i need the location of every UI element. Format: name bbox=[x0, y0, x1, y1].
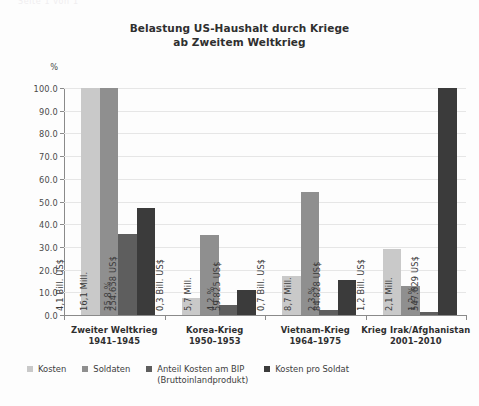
gridline bbox=[64, 133, 466, 134]
bar: 84.828 US$ bbox=[338, 280, 357, 315]
category-years: 1941–1945 bbox=[56, 336, 173, 347]
gridline bbox=[64, 111, 466, 112]
y-axis-tick bbox=[60, 270, 64, 271]
category-name: Krieg Irak/Afghanistan bbox=[358, 325, 475, 336]
x-axis-tick bbox=[466, 315, 467, 320]
bar-value-label: 0,7 Bill. US$ bbox=[255, 259, 265, 311]
x-axis-category-label: Zweiter Weltkrieg1941–1945 bbox=[56, 325, 173, 347]
bar: 547.629 US$ bbox=[438, 88, 457, 315]
x-axis-category-label: Vietnam-Krieg1964–1975 bbox=[257, 325, 374, 347]
x-axis-category-label: Korea-Krieg1950–1953 bbox=[157, 325, 274, 347]
plot-area: 4,1 Bill. US$16,1 Mill.35,8 %254.658 US$… bbox=[64, 88, 466, 315]
bar-value-label: 8,7 Mill. bbox=[283, 277, 293, 311]
category-name: Vietnam-Krieg bbox=[257, 325, 374, 336]
y-axis-tick-label: 10.0 bbox=[2, 288, 58, 298]
bar-value-label: 2,1 Mill. bbox=[384, 277, 394, 311]
y-axis-tick-label: 60.0 bbox=[2, 174, 58, 184]
y-axis-tick-label: 80.0 bbox=[2, 129, 58, 139]
category-name: Zweiter Weltkrieg bbox=[56, 325, 173, 336]
chart-title: Belastung US-Haushalt durch Kriege ab Zw… bbox=[0, 22, 479, 49]
x-axis-tick bbox=[165, 315, 166, 320]
bar-value-label: 254.658 US$ bbox=[108, 256, 118, 311]
gridline bbox=[64, 202, 466, 203]
y-axis-tick bbox=[60, 179, 64, 180]
y-axis-tick bbox=[60, 224, 64, 225]
y-axis-tick-label: 20.0 bbox=[2, 265, 58, 275]
category-years: 1950–1953 bbox=[157, 336, 274, 347]
legend-swatch-icon bbox=[264, 366, 270, 372]
bar-value-label: 4,1 Bill. US$ bbox=[54, 259, 64, 311]
bar-value-label: 547.629 US$ bbox=[410, 256, 420, 311]
y-axis-tick-label: 40.0 bbox=[2, 220, 58, 230]
x-axis-tick bbox=[265, 315, 266, 320]
y-axis-tick bbox=[60, 156, 64, 157]
legend-label: Kosten bbox=[38, 364, 66, 375]
legend-item[interactable]: Soldaten bbox=[82, 364, 130, 375]
y-axis-tick-label: 50.0 bbox=[2, 197, 58, 207]
y-axis-tick-label: 100.0 bbox=[2, 84, 58, 94]
bar-value-label: 84.828 US$ bbox=[312, 261, 322, 311]
x-axis-tick bbox=[64, 315, 65, 320]
legend-swatch-icon bbox=[82, 366, 88, 372]
y-axis-tick bbox=[60, 88, 64, 89]
legend-label-line-2: (Bruttoinlandprodukt) bbox=[157, 375, 248, 386]
gridline bbox=[64, 88, 466, 89]
bar-value-label: 16,1 Mill. bbox=[79, 272, 89, 311]
legend-label: Anteil Kosten am BIP(Bruttoinlandprodukt… bbox=[157, 364, 248, 385]
bar: 35,8 % bbox=[118, 234, 137, 315]
gridline bbox=[64, 156, 466, 157]
category-name: Korea-Krieg bbox=[157, 325, 274, 336]
legend-label: Soldaten bbox=[93, 364, 130, 375]
chart-figure: Seite 1 von 1 Belastung US-Haushalt durc… bbox=[0, 0, 479, 406]
legend-swatch-icon bbox=[27, 366, 33, 372]
bar-value-label: 5,7 Mill. bbox=[183, 277, 193, 311]
legend-item[interactable]: Kosten bbox=[27, 364, 66, 375]
x-axis-category-label: Krieg Irak/Afghanistan2001–2010 bbox=[358, 325, 475, 347]
bar-value-label: 1,2 Bill. US$ bbox=[356, 259, 366, 311]
legend-item[interactable]: Anteil Kosten am BIP(Bruttoinlandprodukt… bbox=[146, 364, 248, 385]
x-axis-tick bbox=[366, 315, 367, 320]
chart-title-line-2: ab Zweitem Weltkrieg bbox=[0, 36, 479, 50]
bar: 254.658 US$ bbox=[137, 208, 156, 315]
bar-value-label: 0,3 Bill. US$ bbox=[155, 259, 165, 311]
y-axis-tick bbox=[60, 133, 64, 134]
gridline bbox=[64, 224, 466, 225]
legend-swatch-icon bbox=[146, 366, 152, 372]
y-axis-tick bbox=[60, 292, 64, 293]
y-axis-labels: 100.090.080.070.060.050.040.030.020.010.… bbox=[0, 0, 58, 406]
bar-value-label: 59.825 US$ bbox=[212, 261, 222, 311]
y-axis-tick bbox=[60, 111, 64, 112]
y-axis-tick-label: 70.0 bbox=[2, 152, 58, 162]
y-axis-tick-label: 0.0 bbox=[2, 311, 58, 321]
bar: 59.825 US$ bbox=[237, 290, 256, 315]
chart-legend: KostenSoldatenAnteil Kosten am BIP(Brutt… bbox=[27, 364, 365, 385]
y-axis-tick-label: 90.0 bbox=[2, 106, 58, 116]
chart-title-line-1: Belastung US-Haushalt durch Kriege bbox=[0, 22, 479, 36]
category-years: 1964–1975 bbox=[257, 336, 374, 347]
y-axis-tick bbox=[60, 202, 64, 203]
legend-item[interactable]: Kosten pro Soldat bbox=[264, 364, 349, 375]
y-axis-tick-label: 30.0 bbox=[2, 242, 58, 252]
bar: 1,2 % bbox=[420, 312, 439, 315]
category-years: 2001–2010 bbox=[358, 336, 475, 347]
legend-label: Kosten pro Soldat bbox=[275, 364, 349, 375]
legend-label-line-1: Anteil Kosten am BIP bbox=[157, 364, 248, 375]
y-axis-tick bbox=[60, 247, 64, 248]
gridline bbox=[64, 179, 466, 180]
